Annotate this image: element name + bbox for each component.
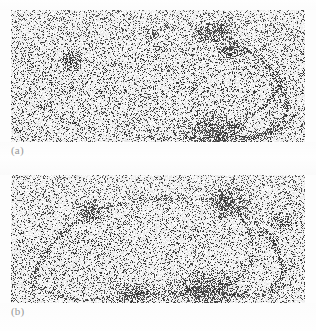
micrograph-image-a (11, 10, 305, 142)
figure-panel-a (11, 10, 305, 142)
panel-label-a: (a) (11, 144, 24, 156)
figure-panel-b (11, 175, 305, 303)
scan-artifact-middle (0, 142, 316, 175)
scan-artifact-bottom (0, 303, 316, 331)
scan-artifact-top (0, 0, 316, 10)
figure-root: (a) (b) (0, 0, 316, 331)
panel-label-b: (b) (11, 305, 24, 317)
micrograph-image-b (11, 175, 305, 303)
